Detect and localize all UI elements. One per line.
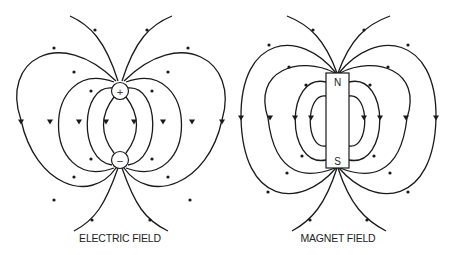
field-line [122, 168, 168, 231]
field-line [292, 168, 337, 231]
field-line [87, 88, 112, 165]
field-line [59, 79, 115, 172]
field-line [338, 16, 390, 73]
plus-icon: + [116, 87, 124, 97]
magnet-field-diagram: N S [238, 16, 439, 231]
magnet-field-caption: MAGNET FIELD [268, 232, 408, 244]
field-line [126, 97, 137, 153]
field-line [126, 79, 182, 172]
bar-magnet: N S [326, 73, 349, 168]
field-line [338, 168, 386, 231]
negative-charge: − [112, 152, 129, 169]
arrow-icons [18, 28, 225, 221]
field-line [287, 16, 337, 73]
field-line [310, 96, 326, 146]
electric-field-diagram: + − [17, 16, 226, 231]
minus-icon: − [116, 156, 124, 166]
field-line [128, 88, 153, 165]
field-line [74, 168, 118, 231]
field-line [124, 53, 225, 187]
electric-field-caption: ELECTRIC FIELD [50, 232, 190, 244]
field-line [70, 16, 118, 81]
field-line [122, 16, 172, 81]
south-pole-label: S [334, 156, 341, 167]
positive-charge: + [112, 83, 129, 100]
field-line [104, 97, 115, 153]
field-line [349, 96, 365, 146]
north-pole-label: N [334, 77, 341, 88]
field-line [17, 53, 116, 187]
field-diagrams: + − [0, 0, 450, 255]
